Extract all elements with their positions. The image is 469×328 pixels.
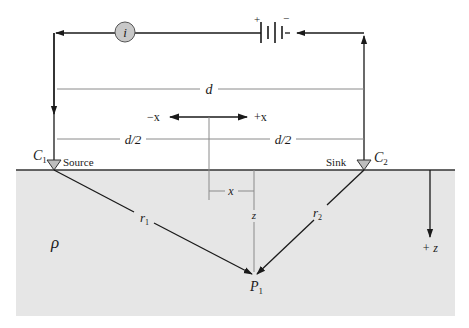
z-depth-label: z — [251, 209, 257, 221]
source-label: Source — [63, 156, 94, 168]
ground-half-space — [16, 170, 455, 316]
battery-minus-label: − — [283, 12, 289, 24]
c1-label: C1 — [33, 148, 47, 165]
ammeter-icon: i — [115, 22, 135, 42]
sink-label: Sink — [326, 156, 347, 168]
source-electrode-icon — [47, 160, 61, 170]
ammeter-label: i — [123, 25, 127, 40]
d-label: d — [206, 82, 214, 97]
sink-electrode-icon — [357, 160, 371, 170]
battery-icon — [261, 22, 282, 43]
resistivity-diagram: i + − d −x +x d/2 d/2 C1 Source Sink C2 … — [0, 0, 469, 328]
half-d-right-label: d/2 — [275, 132, 292, 147]
rho-label: ρ — [50, 233, 59, 252]
half-d-left-label: d/2 — [125, 132, 142, 147]
x-offset-label: x — [227, 184, 234, 198]
neg-x-label: −x — [147, 110, 160, 124]
battery-plus-label: + — [254, 13, 260, 25]
pos-z-label: + z — [422, 241, 438, 255]
pos-x-label: +x — [254, 110, 267, 124]
c2-label: C2 — [374, 150, 388, 167]
